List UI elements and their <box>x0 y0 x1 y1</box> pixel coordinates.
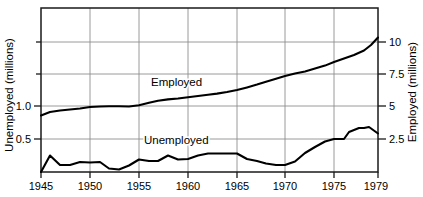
clipped-header-text <box>0 0 423 4</box>
left-axis-ticks <box>34 42 41 139</box>
right-tick-label-2_5: 2.5 <box>389 133 404 145</box>
plot-background <box>41 8 378 172</box>
x-tick-label-1950: 1950 <box>78 180 102 192</box>
x-tick-label-1965: 1965 <box>225 180 249 192</box>
left-axis-title: Unemployed (millions) <box>3 38 15 152</box>
series-label-unemployed: Unemployed <box>144 134 209 146</box>
x-tick-label-1960: 1960 <box>176 180 200 192</box>
x-tick-label-1945: 1945 <box>29 180 53 192</box>
x-axis-ticks <box>41 172 378 178</box>
x-tick-label-1970: 1970 <box>273 180 297 192</box>
chart-canvas: Employed Unemployed 1.0 0.5 10 7.5 5 2.5… <box>0 0 423 197</box>
x-tick-label-1979: 1979 <box>364 180 388 192</box>
left-tick-label-0_5: 0.5 <box>16 133 31 145</box>
employment-chart-figure: Employed Unemployed 1.0 0.5 10 7.5 5 2.5… <box>0 0 423 197</box>
x-tick-label-1975: 1975 <box>322 180 346 192</box>
series-label-employed: Employed <box>151 76 202 88</box>
right-tick-label-5: 5 <box>389 100 395 112</box>
right-tick-label-10: 10 <box>389 36 401 48</box>
series-label-employed-group: Employed <box>151 76 202 88</box>
x-tick-label-1955: 1955 <box>127 180 151 192</box>
right-axis-ticks <box>378 42 386 139</box>
left-tick-label-1_0: 1.0 <box>16 100 31 112</box>
right-axis-title: Employed (millions) <box>406 42 418 143</box>
series-label-unemployed-group: Unemployed <box>144 134 209 146</box>
right-tick-label-7_5: 7.5 <box>389 68 404 80</box>
